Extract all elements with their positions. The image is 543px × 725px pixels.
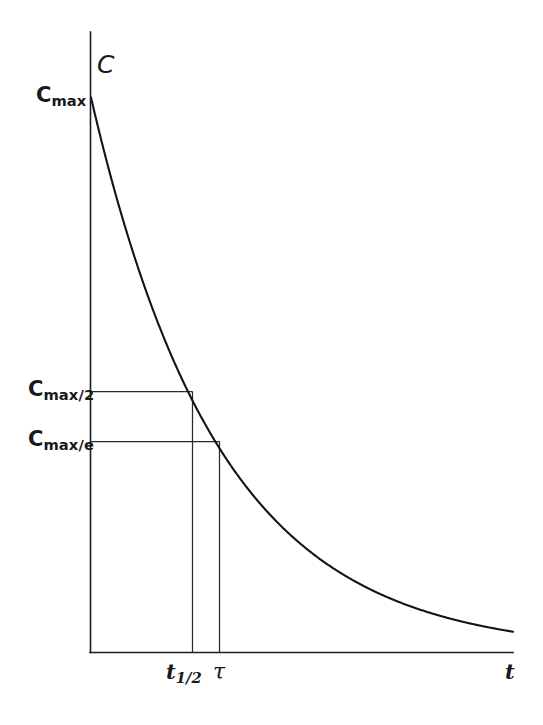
y-tick-label-cmax-e-sub: max/e: [43, 436, 94, 453]
x-tick-label-t-half-base: t: [166, 659, 176, 684]
concentration-decay-curve: [91, 98, 513, 632]
exponential-decay-figure: C Cmax Cmax/2 Cmax/e t1/2 τ t: [0, 0, 543, 725]
y-tick-label-cmax-base: C: [36, 83, 51, 107]
y-tick-label-cmax-sub: max: [51, 92, 86, 109]
x-tick-label-tau: τ: [213, 661, 225, 683]
x-tick-label-t-half-sub: 1/2: [176, 669, 202, 686]
y-axis-title: C: [97, 52, 114, 77]
y-tick-label-cmax-half-base: C: [28, 377, 43, 401]
y-tick-label-cmax-half: Cmax/2: [28, 379, 94, 400]
x-tick-label-t-half: t1/2: [166, 661, 202, 682]
y-tick-label-cmax-e: Cmax/e: [28, 429, 94, 450]
x-axis-title: t: [505, 661, 515, 682]
y-tick-label-cmax-half-sub: max/2: [43, 386, 94, 403]
y-tick-label-cmax-e-base: C: [28, 427, 43, 451]
y-tick-label-cmax: Cmax: [36, 85, 86, 106]
